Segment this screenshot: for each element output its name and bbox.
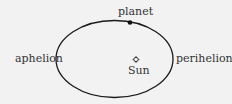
- sun-label: Sun: [128, 65, 150, 77]
- orbit-ellipse: [56, 21, 173, 98]
- planet-label: planet: [118, 6, 153, 18]
- sun-icon: [133, 56, 140, 63]
- aphelion-label: aphelion: [15, 53, 63, 65]
- planet-dot: [128, 20, 133, 25]
- orbit-diagram: planet aphelion perihelion Sun: [0, 0, 232, 104]
- perihelion-label: perihelion: [176, 53, 232, 65]
